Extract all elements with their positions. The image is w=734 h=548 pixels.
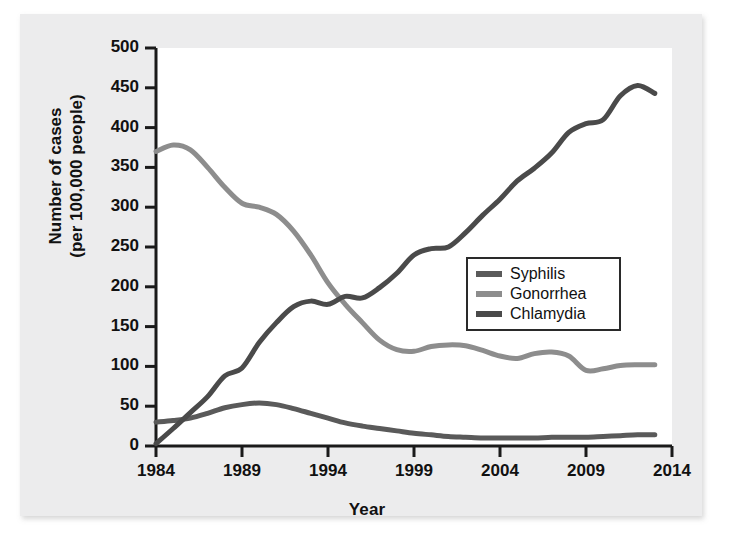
y-tick-label: 500: [91, 37, 139, 57]
y-tick-label: 250: [91, 236, 139, 256]
x-tick-label: 2004: [470, 461, 530, 481]
x-tick-label: 1984: [126, 461, 186, 481]
x-tick-label: 2009: [556, 461, 616, 481]
x-tick-label: 1999: [384, 461, 444, 481]
plot-area-background: [156, 48, 672, 446]
legend-swatch-syphilis: [476, 271, 502, 277]
legend-swatch-chlamydia: [476, 311, 502, 317]
legend-label-chlamydia: Chlamydia: [510, 305, 586, 323]
legend-label-syphilis: Syphilis: [510, 265, 565, 283]
y-tick-label: 350: [91, 156, 139, 176]
y-tick-label: 150: [91, 316, 139, 336]
x-tick-label: 1989: [212, 461, 272, 481]
y-tick-label: 100: [91, 355, 139, 375]
y-tick-label: 450: [91, 77, 139, 97]
x-axis-ticks: [156, 446, 672, 457]
legend-swatch-gonorrhea: [476, 291, 502, 297]
legend-item-gonorrhea: Gonorrhea: [476, 284, 613, 304]
figure-page: 050100150200250300350400450500 198419891…: [0, 0, 734, 548]
y-tick-label: 400: [91, 117, 139, 137]
legend-item-chlamydia: Chlamydia: [476, 304, 613, 324]
y-axis-title-line1: Number of cases: [45, 108, 66, 245]
x-tick-label: 1994: [298, 461, 358, 481]
x-axis-title: Year: [0, 500, 734, 520]
y-axis-title-line2: (per 100,000 people): [66, 94, 87, 257]
y-tick-label: 200: [91, 276, 139, 296]
legend-item-syphilis: Syphilis: [476, 264, 613, 284]
chart-legend: Syphilis Gonorrhea Chlamydia: [466, 257, 621, 331]
y-axis-title: Number of cases (per 100,000 people): [36, 46, 96, 306]
legend-label-gonorrhea: Gonorrhea: [510, 285, 587, 303]
y-axis-ticks: [145, 48, 156, 446]
y-tick-label: 50: [91, 395, 139, 415]
line-chart: 050100150200250300350400450500 198419891…: [0, 0, 734, 548]
y-tick-label: 300: [91, 196, 139, 216]
x-tick-label: 2014: [642, 461, 702, 481]
y-tick-label: 0: [91, 435, 139, 455]
